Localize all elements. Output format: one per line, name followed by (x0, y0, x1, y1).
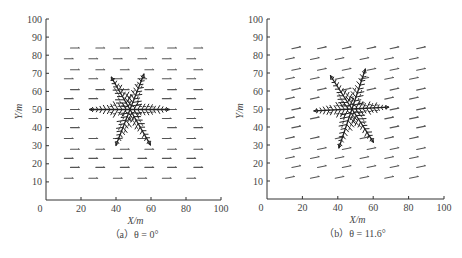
y-tick-label: 40 (32, 122, 42, 133)
y-tick-label: 70 (32, 68, 42, 79)
chart-panel-a: 020406080100102030405060708090100X/mY/m（… (13, 14, 229, 241)
y-tick-label: 30 (32, 140, 42, 151)
dendrite-crystal (90, 74, 169, 145)
y-axis-title: Y/m (13, 104, 24, 120)
y-tick-label: 60 (32, 86, 42, 97)
x-tick-label: 60 (146, 203, 156, 214)
x-axis-title: X/m (126, 215, 143, 226)
x-tick-label: 20 (76, 203, 86, 214)
figure: 020406080100102030405060708090100X/mY/m（… (0, 0, 462, 258)
y-tick-label: 20 (253, 158, 263, 169)
x-axis-title: X/m (348, 214, 365, 225)
y-tick-label: 20 (32, 158, 42, 169)
y-tick-label: 80 (253, 50, 263, 61)
x-tick-label: 40 (333, 202, 343, 213)
y-tick-label: 10 (32, 176, 42, 187)
y-tick-label: 90 (32, 32, 42, 43)
y-tick-label: 30 (253, 140, 263, 151)
panel-caption: （b）θ = 11.6° (324, 228, 386, 239)
x-tick-label: 40 (111, 203, 121, 214)
x-tick-label: 20 (297, 202, 307, 213)
x-tick-label: 100 (437, 202, 452, 213)
y-axis-title: Y/m (234, 103, 245, 119)
x-tick-label: 0 (38, 203, 43, 214)
y-tick-label: 40 (253, 122, 263, 133)
x-tick-label: 60 (368, 202, 378, 213)
y-tick-label: 50 (253, 104, 263, 115)
x-tick-label: 0 (259, 202, 264, 213)
dendrite-crystal (314, 69, 389, 148)
y-tick-label: 100 (27, 14, 42, 25)
y-tick-label: 100 (248, 14, 263, 25)
y-tick-label: 10 (253, 176, 263, 187)
x-tick-label: 80 (181, 203, 191, 214)
y-tick-label: 60 (253, 86, 263, 97)
panel-caption: （a）θ = 0° (110, 229, 159, 240)
y-tick-label: 50 (32, 104, 42, 115)
y-tick-label: 90 (253, 32, 263, 43)
y-tick-label: 80 (32, 50, 42, 61)
x-tick-label: 80 (404, 202, 414, 213)
x-tick-label: 100 (214, 203, 229, 214)
y-tick-label: 70 (253, 68, 263, 79)
chart-panel-b: 020406080100102030405060708090100X/mY/m（… (234, 14, 452, 240)
